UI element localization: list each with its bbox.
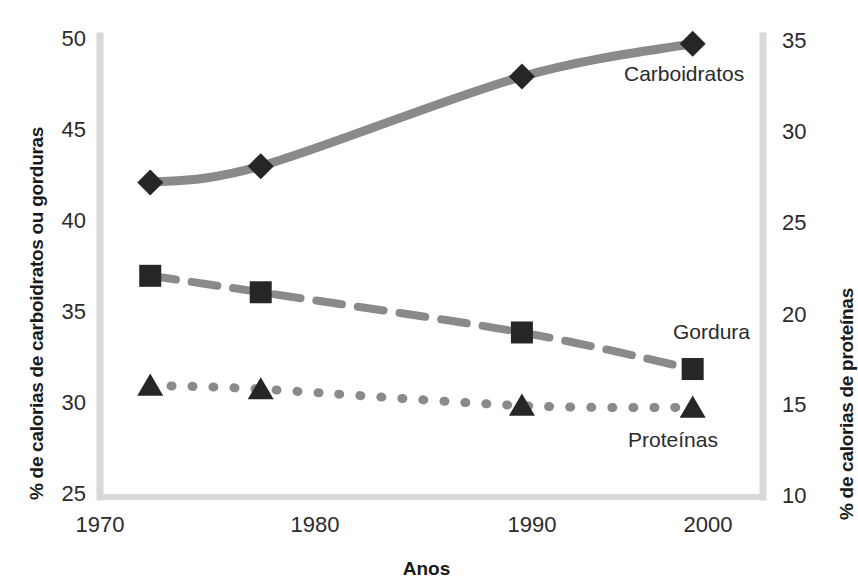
marker-proteínas-0 [137,373,163,395]
series-gordura [139,265,703,380]
marker-carboidratos-1 [248,153,274,179]
marker-carboidratos-2 [509,64,535,90]
marker-gordura-3 [682,358,704,380]
marker-gordura-2 [511,321,533,343]
series-line-gordura [150,276,692,369]
series-layer [137,31,705,418]
series-line-carboidratos [150,44,692,183]
marker-gordura-1 [250,281,272,303]
marker-carboidratos-3 [680,31,706,57]
series-proteínas [137,373,705,417]
marker-proteínas-3 [680,395,706,417]
series-line-proteínas [150,385,692,407]
marker-gordura-0 [139,265,161,287]
series-carboidratos [137,31,705,196]
marker-carboidratos-0 [137,170,163,196]
